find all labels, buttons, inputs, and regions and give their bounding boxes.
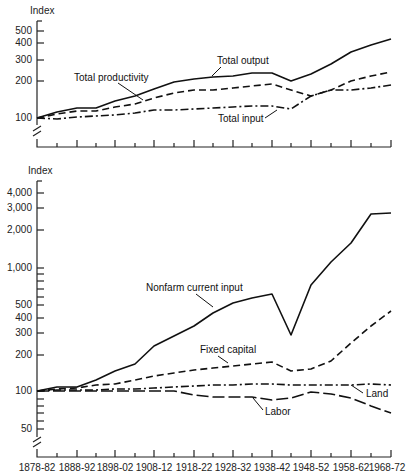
- leader-fixed-capital: [218, 356, 228, 363]
- top-x-axis: [37, 139, 391, 147]
- label-total-input: Total input: [218, 113, 264, 124]
- top-axis-break-icon: [33, 126, 41, 136]
- top-y-ticks: 500 400 300 200 100: [15, 21, 44, 123]
- leader-total-output: [212, 67, 221, 76]
- top-y-tick-500: 500: [15, 25, 32, 36]
- bottom-y-tick-3000: 3,000: [7, 202, 32, 213]
- leader-nonfarm-current-input: [196, 294, 213, 307]
- x-tick-1928-32: 1928-32: [215, 462, 252, 473]
- leader-total-input: [265, 110, 277, 118]
- x-tick-1888-92: 1888-92: [59, 462, 96, 473]
- top-y-tick-100: 100: [15, 112, 32, 123]
- top-chart: Index 500 400 300 200 100: [15, 5, 391, 147]
- series-labor: [37, 391, 391, 413]
- x-tick-1878-82: 1878-82: [19, 462, 56, 473]
- series-nonfarm-current-input: [37, 213, 391, 391]
- x-tick-1948-52: 1948-52: [293, 462, 330, 473]
- label-total-output: Total output: [217, 55, 269, 66]
- label-labor: Labor: [265, 406, 291, 417]
- bottom-x-tick-labels: 1878-82 1888-92 1898-02 1908-12 1918-22 …: [19, 462, 406, 473]
- x-tick-1898-02: 1898-02: [97, 462, 134, 473]
- bottom-x-axis: [37, 449, 391, 457]
- label-nonfarm-current-input: Nonfarm current input: [146, 282, 243, 293]
- top-x-ticks: [57, 140, 391, 147]
- top-y-axis-title: Index: [30, 5, 54, 16]
- bottom-y-tick-1000: 1,000: [7, 262, 32, 273]
- bottom-y-tick-50: 50: [21, 423, 33, 434]
- x-tick-1938-42: 1938-42: [254, 462, 291, 473]
- bottom-y-tick-4000: 4,000: [7, 187, 32, 198]
- bottom-axis-break-icon: [33, 437, 41, 447]
- bottom-y-tick-300: 300: [15, 327, 32, 338]
- bottom-y-tick-200: 200: [15, 349, 32, 360]
- top-y-tick-300: 300: [15, 54, 32, 65]
- top-y-tick-200: 200: [15, 75, 32, 86]
- leader-land: [351, 385, 363, 393]
- x-tick-1968-72: 1968-72: [369, 462, 406, 473]
- label-fixed-capital: Fixed capital: [200, 344, 256, 355]
- x-tick-1958-62: 1958-62: [333, 462, 370, 473]
- label-total-productivity: Total productivity: [74, 72, 148, 83]
- bottom-y-tick-400: 400: [15, 312, 32, 323]
- bottom-y-tick-2000: 2,000: [7, 224, 32, 235]
- x-tick-1918-22: 1918-22: [176, 462, 213, 473]
- chart-figure: Index 500 400 300 200 100: [0, 0, 412, 476]
- bottom-x-ticks: [57, 450, 391, 457]
- bottom-y-axis-title: Index: [28, 165, 52, 176]
- bottom-chart: Index 4,000 3,000 2,00: [7, 165, 406, 473]
- bottom-y-tick-500: 500: [15, 299, 32, 310]
- x-tick-1908-12: 1908-12: [136, 462, 173, 473]
- bottom-y-tick-100: 100: [15, 385, 32, 396]
- bottom-y-ticks: 4,000 3,000 2,000 1,000 500 400 300 200 …: [7, 181, 44, 434]
- leader-labor: [253, 398, 263, 410]
- series-land: [37, 384, 391, 391]
- label-land: Land: [366, 388, 388, 399]
- top-y-tick-400: 400: [15, 37, 32, 48]
